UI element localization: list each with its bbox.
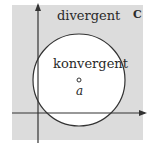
center-label: a — [76, 84, 83, 98]
plane-label: C — [133, 8, 142, 21]
convergence-disk-diagram: divergent C konvergent a — [0, 0, 151, 146]
konvergent-label: konvergent — [53, 56, 129, 71]
center-point — [77, 78, 81, 82]
divergent-label: divergent — [57, 8, 121, 23]
